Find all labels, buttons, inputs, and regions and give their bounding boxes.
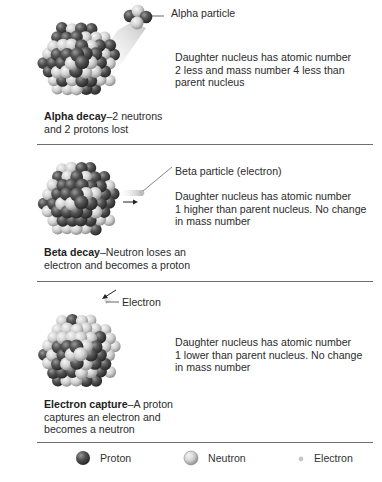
beta-description-line: Daughter nucleus has atomic number xyxy=(175,190,366,203)
alpha-description-line: parent nucleus xyxy=(175,76,351,89)
legend-proton-label: Proton xyxy=(100,452,131,464)
beta-arrow-icon xyxy=(122,198,142,206)
beta-parent-nucleus-icon xyxy=(34,154,124,246)
beta-particle-label: Beta particle (electron) xyxy=(175,165,282,178)
alpha-caption: Alpha decay–2 neutrons and 2 protons los… xyxy=(44,110,162,135)
beta-description-line: in mass number xyxy=(175,215,366,228)
beta-description: Daughter nucleus has atomic number 1 hig… xyxy=(175,190,366,228)
legend-electron-label: Electron xyxy=(314,452,353,464)
electron-capture-caption-title: Electron capture xyxy=(44,398,128,410)
electron-capture-caption-text: –A proton xyxy=(128,398,173,410)
alpha-caption-text: –2 neutrons xyxy=(106,110,162,122)
beta-description-line: 1 higher than parent nucleus. No change xyxy=(175,203,366,216)
beta-caption-title: Beta decay xyxy=(44,246,100,258)
section-divider xyxy=(37,442,373,443)
alpha-description-line: Daughter nucleus has atomic number xyxy=(175,51,351,64)
alpha-particle-label: Alpha particle xyxy=(171,7,235,20)
electron-capture-caption-text: captures an electron and xyxy=(44,411,173,424)
alpha-caption-title: Alpha decay xyxy=(44,110,106,122)
electron-capture-description-line: 1 lower than parent nucleus. No change xyxy=(175,349,362,362)
neutron-sphere-icon xyxy=(183,450,199,466)
electron-capture-description-line: in mass number xyxy=(175,361,362,374)
alpha-description-line: 2 less and mass number 4 less than xyxy=(175,64,351,77)
alpha-parent-nucleus-icon xyxy=(34,14,124,106)
electron-dot-icon xyxy=(297,455,305,463)
alpha-caption-text: and 2 protons lost xyxy=(44,123,162,136)
electron-capture-description-line: Daughter nucleus has atomic number xyxy=(175,336,362,349)
legend-neutron-label: Neutron xyxy=(208,452,246,464)
electron-capture-arrow-icon xyxy=(100,288,120,302)
alpha-description: Daughter nucleus has atomic number 2 les… xyxy=(175,51,351,89)
electron-capture-caption-text: becomes a neutron xyxy=(44,423,173,436)
electron-capture-caption: Electron capture–A proton captures an el… xyxy=(44,398,173,436)
alpha-particle-icon xyxy=(120,3,160,33)
beta-caption-text: –Neutron loses an xyxy=(100,246,186,258)
beta-caption: Beta decay–Neutron loses an electron and… xyxy=(44,246,190,271)
electron-capture-description: Daughter nucleus has atomic number 1 low… xyxy=(175,336,362,374)
electron-capture-nucleus-icon xyxy=(34,306,124,398)
beta-caption-text: electron and becomes a proton xyxy=(44,259,190,272)
electron-particle-label: Electron xyxy=(122,296,161,309)
proton-sphere-icon xyxy=(75,450,91,466)
